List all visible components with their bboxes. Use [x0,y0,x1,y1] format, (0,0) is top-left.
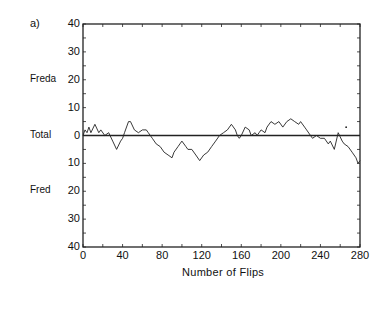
x-tick-label: 160 [221,249,261,261]
x-tick-label: 240 [300,249,340,261]
y-tick-label: 10 [68,156,80,168]
x-tick-label: 0 [63,249,103,261]
y-tick-label: 30 [68,212,80,224]
x-tick-label: 40 [103,249,143,261]
annotation-dot [345,126,347,128]
y-tick-label: 30 [68,45,80,57]
lead-trace [83,119,360,164]
x-tick-label: 80 [142,249,182,261]
side-label-total: Total [30,129,51,140]
side-label-fred: Fred [30,184,51,195]
y-tick-label: 20 [68,73,80,85]
y-tick-label: 40 [68,17,80,29]
side-label-freda: Freda [30,73,56,84]
y-tick-label: 0 [74,129,80,141]
y-tick-label: 10 [68,101,80,113]
x-tick-label: 280 [340,249,380,261]
x-tick-label: 200 [261,249,301,261]
x-tick-label: 120 [182,249,222,261]
x-axis-title: Number of Flips [182,266,264,278]
y-tick-label: 20 [68,184,80,196]
